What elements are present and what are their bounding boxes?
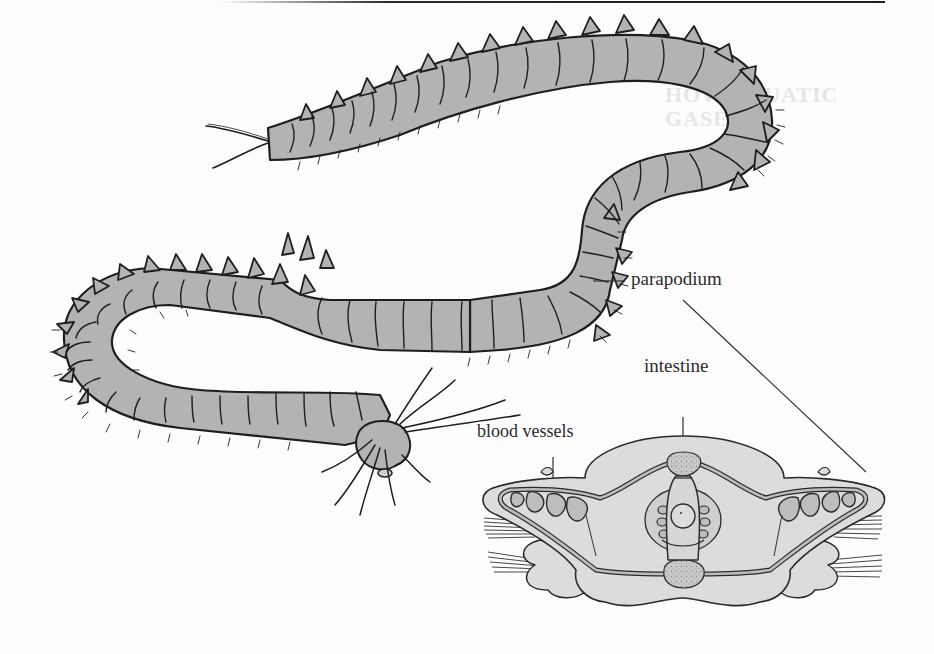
worm-illustration <box>0 0 934 654</box>
ventral-nerve-cord <box>664 560 704 589</box>
intestine-dot <box>680 512 682 514</box>
label-intestine: intestine <box>644 355 708 377</box>
tail-cirri-icon <box>206 124 268 168</box>
textbook-page: HOW AQUATIC GASES <box>0 0 934 654</box>
label-blood-vessels: blood vessels <box>477 421 574 442</box>
label-parapodium: parapodium <box>631 268 722 290</box>
intestine-lumen <box>671 504 695 528</box>
body-segment-lower <box>64 268 470 445</box>
cross-section-diagram <box>483 436 885 606</box>
worm-mouth <box>378 469 392 477</box>
